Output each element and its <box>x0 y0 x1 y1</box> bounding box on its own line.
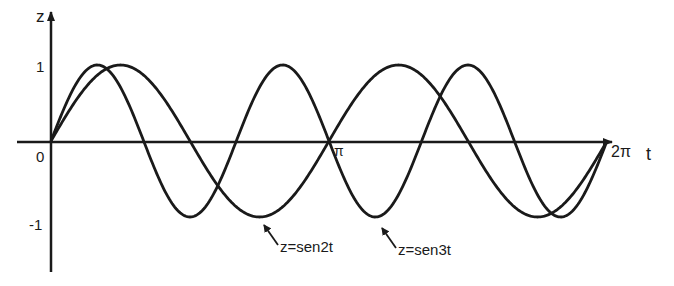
tick-label-2pi: 2π <box>611 143 631 160</box>
origin-label: 0 <box>36 148 44 165</box>
tick-label-minus-1: -1 <box>29 216 42 233</box>
tick-label-1: 1 <box>36 58 44 75</box>
annotation-sen2t: z=sen2t <box>280 238 334 255</box>
z-axis-label: z <box>36 7 45 26</box>
annotation-arrow-sen3t <box>382 228 396 248</box>
sine-plot: z t 0 1 -1 π 2π z=sen2t z=sen3t <box>0 0 674 286</box>
tick-label-pi: π <box>334 143 344 159</box>
t-axis-label: t <box>646 144 651 164</box>
annotation-arrow-sen2t <box>264 225 278 245</box>
annotation-sen3t: z=sen3t <box>398 241 452 258</box>
